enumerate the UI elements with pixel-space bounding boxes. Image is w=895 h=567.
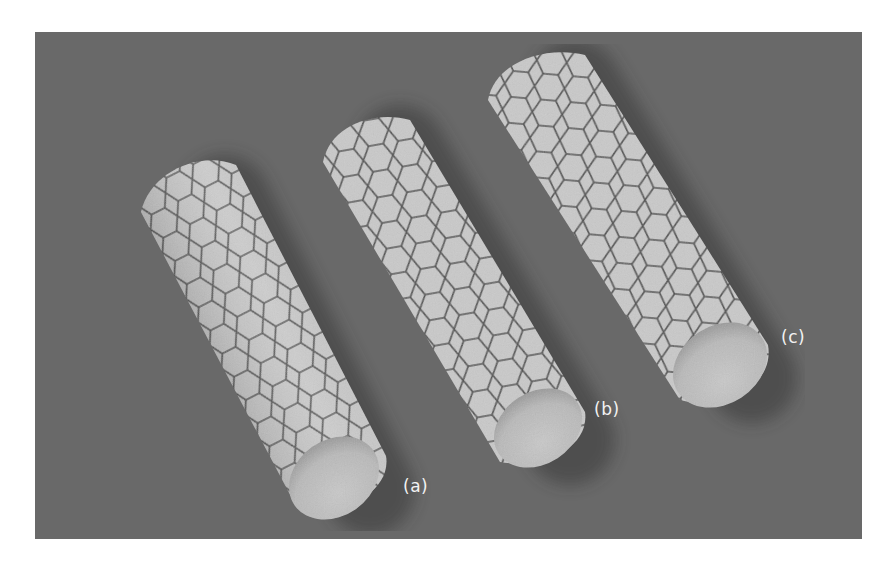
label-c: (c) bbox=[781, 327, 805, 347]
nanotube-figure: (a) (b) (c) bbox=[0, 0, 895, 567]
label-b: (b) bbox=[594, 399, 620, 419]
nanotube-scene bbox=[0, 0, 895, 567]
label-a: (a) bbox=[403, 476, 428, 496]
